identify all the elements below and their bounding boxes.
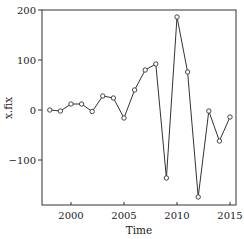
y-tick-label: −100 [9, 155, 36, 166]
plot-frame [42, 10, 236, 205]
data-point [69, 102, 73, 106]
data-point [217, 139, 221, 143]
data-point [154, 62, 158, 66]
y-axis: −1000100200 [9, 5, 42, 166]
data-point [101, 94, 105, 98]
data-point [185, 70, 189, 74]
data-point [132, 88, 136, 92]
x-tick-label: 2005 [111, 210, 136, 221]
x-tick-label: 2000 [58, 210, 83, 221]
line-chart: −1000100200 2000200520102015 Time x.fix [0, 0, 244, 239]
data-point [48, 108, 52, 112]
y-axis-title: x.fix [2, 97, 14, 119]
y-tick-label: 100 [17, 55, 36, 66]
data-point [122, 116, 126, 120]
data-point [228, 115, 232, 119]
data-point [164, 176, 168, 180]
y-tick-label: 0 [30, 105, 36, 116]
y-tick-label: 200 [17, 5, 36, 16]
data-point [175, 15, 179, 19]
data-point [111, 96, 115, 100]
x-tick-label: 2010 [164, 210, 189, 221]
data-point [143, 68, 147, 72]
series-line [50, 17, 230, 197]
x-tick-label: 2015 [217, 210, 242, 221]
data-point [58, 109, 62, 113]
data-point [79, 102, 83, 106]
data-point [207, 109, 211, 113]
data-point [90, 109, 94, 113]
x-axis-title: Time [126, 224, 153, 236]
data-markers [48, 15, 233, 199]
data-point [196, 195, 200, 199]
